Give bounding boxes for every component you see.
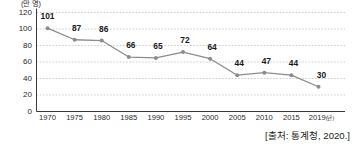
data-point-marker	[289, 73, 293, 77]
data-value-label: 30	[317, 71, 326, 80]
y-axis-tick-label: 100	[8, 25, 32, 33]
data-value-label: 86	[99, 25, 108, 34]
x-axis-tick-label: 2010	[256, 114, 273, 122]
x-axis-tick-label: 2019(년)	[309, 114, 335, 122]
axis-lines-group	[37, 9, 346, 112]
data-point-marker	[127, 55, 131, 59]
x-axis-tick-label: 2005	[229, 114, 246, 122]
data-point-marker	[154, 56, 158, 60]
data-value-label: 44	[289, 59, 298, 68]
data-point-marker	[317, 85, 321, 89]
data-value-label: 101	[41, 12, 55, 21]
data-value-label: 72	[180, 36, 189, 45]
line-chart-figure: (만 명) 020406080100120 197019751980198519…	[0, 0, 357, 146]
data-point-marker	[181, 50, 185, 54]
data-point-marker	[208, 57, 212, 61]
chart-plot-area	[0, 0, 357, 146]
data-value-label: 65	[153, 42, 162, 51]
source-note: [출처: 통계청, 2020.]	[265, 130, 350, 142]
gridlines-group	[37, 13, 346, 112]
y-axis-tick-label: 40	[8, 75, 32, 83]
x-axis-tick-label: 2015	[283, 114, 300, 122]
y-axis-tick-label: 120	[8, 9, 32, 17]
data-value-label: 87	[72, 24, 81, 33]
x-axis-tick-label: 1990	[147, 114, 164, 122]
data-point-marker	[73, 38, 77, 42]
data-point-marker	[262, 71, 266, 75]
data-point-marker	[46, 26, 50, 30]
data-point-marker	[100, 39, 104, 43]
x-axis-tick-label: 1975	[66, 114, 83, 122]
data-value-label: 64	[207, 43, 216, 52]
x-axis-tick-label: 2000	[202, 114, 219, 122]
data-value-label: 44	[235, 59, 244, 68]
y-axis-tick-label: 0	[8, 108, 32, 116]
data-value-label: 47	[262, 57, 271, 66]
x-axis-tick-label: 1980	[93, 114, 110, 122]
x-axis-tick-label: 1995	[175, 114, 192, 122]
data-point-marker	[235, 73, 239, 77]
x-axis-tick-label: 1985	[120, 114, 137, 122]
x-axis-unit-suffix: (년)	[326, 115, 335, 121]
y-axis-tick-label: 20	[8, 91, 32, 99]
x-axis-tick-label: 1970	[39, 114, 56, 122]
y-axis-tick-label: 80	[8, 42, 32, 50]
data-value-label: 66	[126, 41, 135, 50]
y-axis-tick-label: 60	[8, 58, 32, 66]
